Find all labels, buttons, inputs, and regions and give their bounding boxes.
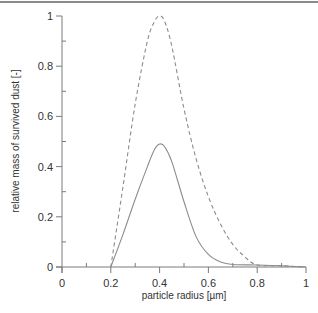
x-tick-label: 0 [59,277,65,289]
y-tick-label: 0.6 [38,110,53,122]
y-tick-label: 0 [47,261,53,273]
axis-labels: particle radius [µm] relative mass of su… [10,69,227,301]
y-tick-label: 1 [47,10,53,22]
series-solid-line [111,144,306,267]
y-tick-label: 0.8 [38,60,53,72]
x-tick-label: 0.4 [152,277,167,289]
y-tick-label: 0.2 [38,211,53,223]
x-tick-label: 0.2 [103,277,118,289]
x-tick-label: 0.8 [250,277,265,289]
x-tick-label: 1 [303,277,309,289]
chart: 00.20.40.60.8100.20.40.60.81 particle ra… [0,0,318,313]
x-tick-label: 0.6 [201,277,216,289]
x-axis-title: particle radius [µm] [142,290,227,301]
plot-area [111,16,306,267]
series-dashed-line [111,16,306,267]
y-axis-title: relative mass of survived dust [-] [10,69,21,213]
y-tick-label: 0.4 [38,161,53,173]
